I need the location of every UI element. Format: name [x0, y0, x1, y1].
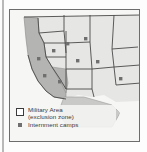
- legend-label-military-area-line2: (exclusion zone): [28, 114, 74, 121]
- figure-root: Military Area (exclusion zone) Internmen…: [0, 0, 147, 152]
- legend-item-internment-camps: Internment camps: [15, 122, 113, 129]
- legend-label-military-area-line1: Military Area: [28, 106, 63, 113]
- camp-marker: [96, 60, 99, 63]
- left-margin-rule: [2, 0, 4, 152]
- military-area-swatch-icon: [16, 108, 24, 116]
- camp-marker: [76, 59, 79, 62]
- camp-marker: [37, 57, 40, 60]
- map-legend: Military Area (exclusion zone) Internmen…: [12, 105, 116, 139]
- camp-marker: [84, 37, 87, 40]
- camp-marker: [119, 77, 122, 80]
- camp-marker: [52, 49, 55, 52]
- camp-marker: [43, 74, 46, 77]
- legend-item-military-area: Military Area (exclusion zone): [15, 107, 113, 120]
- camp-marker: [58, 80, 61, 83]
- legend-label-military-area: Military Area (exclusion zone): [28, 107, 74, 120]
- map-figure: Military Area (exclusion zone) Internmen…: [9, 9, 140, 142]
- camp-marker: [66, 42, 69, 45]
- internment-camp-swatch-icon: [18, 123, 22, 127]
- map-canvas: Military Area (exclusion zone) Internmen…: [10, 10, 139, 141]
- legend-label-internment-camps: Internment camps: [28, 122, 78, 129]
